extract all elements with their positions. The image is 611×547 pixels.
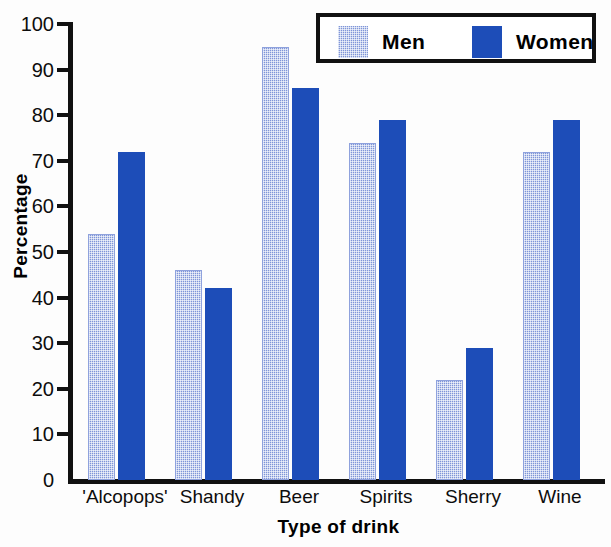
y-tick-label: 0 [8, 470, 54, 490]
legend: Men Women [316, 13, 596, 63]
y-tick-label: 90 [8, 60, 54, 80]
y-axis-title: Percentage [10, 161, 32, 291]
legend-swatch-men-icon [338, 26, 368, 58]
bar-women-beer [292, 88, 319, 480]
bar-chart: 100 90 80 70 60 50 40 30 20 10 0 Percent… [0, 0, 611, 547]
bar-women-sherry [466, 348, 493, 480]
bar-men-spirits [349, 143, 376, 480]
y-tick-label: 100 [8, 14, 54, 34]
legend-label-women: Women [516, 30, 593, 54]
y-tick-label: 10 [8, 424, 54, 444]
bar-men-beer [262, 47, 289, 480]
bar-women-alcopops [118, 152, 145, 480]
bar-men-wine [523, 152, 550, 480]
y-tick-label: 80 [8, 105, 54, 125]
bar-men-alcopops [88, 234, 115, 480]
plot-area [72, 24, 605, 480]
legend-entry-men: Men [338, 25, 425, 59]
y-tick-label: 20 [8, 379, 54, 399]
legend-swatch-women-icon [472, 26, 502, 58]
bar-women-wine [553, 120, 580, 480]
y-tick-label: 30 [8, 333, 54, 353]
bar-women-spirits [379, 120, 406, 480]
x-axis-title: Type of drink [72, 516, 605, 538]
bar-women-shandy [205, 288, 232, 480]
legend-entry-women: Women [472, 25, 593, 59]
x-tick-label-wine: Wine [508, 486, 611, 508]
bar-men-shandy [175, 270, 202, 480]
legend-label-men: Men [382, 30, 425, 54]
y-tick-label: 40 [8, 288, 54, 308]
bar-men-sherry [436, 380, 463, 480]
